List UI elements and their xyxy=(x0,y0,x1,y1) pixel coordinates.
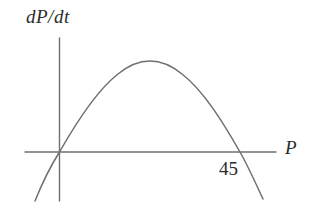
y-axis-label: dP/dt xyxy=(26,7,70,26)
x-axis-label: P xyxy=(285,138,297,157)
curve-group xyxy=(35,61,263,201)
parabola-curve xyxy=(35,61,263,201)
parabola-figure: dP/dt P 45 xyxy=(0,0,315,205)
plot-canvas xyxy=(0,0,315,205)
axes-group xyxy=(25,38,276,201)
x-axis-tick-label-45: 45 xyxy=(219,159,238,178)
